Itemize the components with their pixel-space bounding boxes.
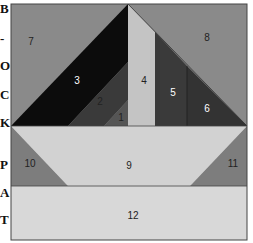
label-5: 5	[170, 87, 176, 98]
sailboat-quilt-diagram: 7 3 2 1 4 5 6 8 9 10 11 12	[0, 0, 253, 243]
label-7: 7	[28, 36, 34, 47]
label-1: 1	[118, 112, 124, 123]
label-4: 4	[141, 75, 147, 86]
label-10: 10	[24, 158, 36, 169]
label-2: 2	[97, 96, 103, 107]
label-3: 3	[74, 75, 80, 86]
label-8: 8	[204, 32, 210, 43]
label-12: 12	[127, 210, 139, 221]
label-6: 6	[204, 103, 210, 114]
label-9: 9	[126, 160, 132, 171]
label-11: 11	[228, 158, 239, 169]
